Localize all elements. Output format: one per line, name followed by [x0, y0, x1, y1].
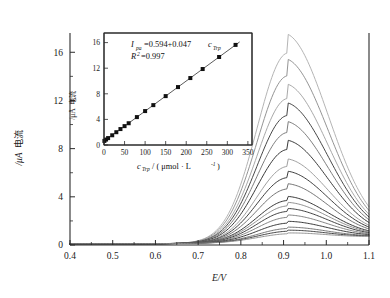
inset-data-point: [217, 55, 221, 59]
main-y-tick-label: 0: [58, 240, 63, 250]
voltammogram-figure: 0481216 0.40.50.60.70.80.91.01.1 电流 /μA …: [0, 0, 390, 298]
inset-y-tick-label: 0: [96, 141, 100, 150]
inset-data-point: [118, 127, 122, 131]
inset-y-tick-label: 8: [96, 90, 100, 99]
r-squared-var: R: [130, 52, 136, 61]
inset-data-point: [164, 94, 168, 98]
main-y-axis-label: 电流 /μA: [13, 130, 24, 167]
inset-x-tick-label: 300: [222, 148, 234, 157]
main-y-tick-label: 8: [58, 144, 63, 154]
main-y-axis-unit-text: /μA: [14, 152, 24, 166]
inset-data-point: [234, 43, 238, 47]
inset-x-label-sub: Trp: [142, 166, 150, 172]
r-squared-sup: 2: [137, 51, 140, 57]
main-y-tick-label: 16: [54, 48, 64, 58]
inset-x-label-var: c: [137, 162, 141, 171]
main-y-tick-label: 12: [54, 96, 64, 106]
inset-y-axis-label: 电流 /μA: [68, 91, 77, 120]
main-x-tick-label: 0.5: [107, 251, 119, 261]
inset-x-label-close: ): [217, 162, 220, 171]
inset-x-tick-label: 200: [181, 148, 193, 157]
inset-y-axis-unit-text: /μA: [68, 108, 77, 120]
inset-x-label-exp: -1: [211, 161, 216, 167]
equation-rhs-var: c: [208, 40, 212, 49]
main-y-tick-label: 4: [58, 192, 63, 202]
inset-x-tick-label: 0: [102, 148, 106, 157]
inset-x-tick-label: 100: [139, 148, 151, 157]
inset-data-point: [110, 133, 114, 137]
inset-data-point: [114, 130, 118, 134]
inset-data-point: [176, 85, 180, 89]
main-x-tick-label: 0.8: [235, 251, 247, 261]
inset-data-point: [135, 115, 139, 119]
inset-x-label-unit: / ( μmol · L: [152, 162, 191, 171]
main-x-tick-label: 0.6: [149, 251, 161, 261]
inset-data-point: [143, 109, 147, 113]
inset-data-point: [151, 103, 155, 107]
figure-canvas: 0481216 0.40.50.60.70.80.91.01.1 电流 /μA …: [0, 0, 390, 298]
r-squared-value: =0.997: [141, 52, 165, 61]
equation-rhs-sub: Trp: [213, 45, 221, 51]
inset-y-tick-label: 4: [96, 115, 100, 124]
inset-data-point: [188, 76, 192, 80]
inset-x-tick-label: 50: [121, 148, 129, 157]
main-x-tick-label: 0.4: [64, 251, 76, 261]
inset-data-point: [127, 121, 131, 125]
inset-x-tick-label: 350: [242, 148, 254, 157]
main-x-tick-label: 0.9: [278, 251, 290, 261]
inset-y-tick-label: 12: [92, 64, 100, 73]
main-y-axis-label-text: 电流: [13, 130, 24, 148]
inset-data-point: [123, 124, 127, 128]
inset-data-point: [106, 136, 110, 140]
inset-y-axis-label-text: 电流: [68, 91, 77, 105]
inset-y-tick-label: 16: [92, 38, 100, 47]
main-x-axis-label: E/V: [211, 273, 227, 283]
inset-x-tick-label: 250: [201, 148, 213, 157]
inset-data-point: [201, 67, 205, 71]
inset-x-tick-label: 150: [160, 148, 172, 157]
main-x-tick-label: 0.7: [192, 251, 204, 261]
main-x-tick-label: 1.1: [363, 251, 375, 261]
equation-rhs: =0.594+0.047: [144, 40, 191, 49]
main-x-tick-label: 1.0: [320, 251, 332, 261]
